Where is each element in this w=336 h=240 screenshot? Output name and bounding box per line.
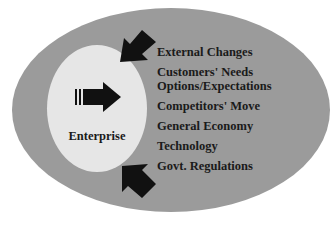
inbound-arrow-icon: [118, 24, 158, 64]
factor-customers-needs: Customers' Needs Options/Expectations: [157, 65, 272, 93]
right-arrow-icon: [75, 82, 121, 112]
factor-competitors-move: Competitors' Move: [157, 99, 272, 113]
factor-customers-needs-line2: Options/Expectations: [157, 79, 272, 93]
factor-general-economy: General Economy: [157, 119, 272, 133]
factor-govt-regulations: Govt. Regulations: [157, 159, 272, 173]
external-factors-list: External Changes Customers' Needs Option…: [157, 45, 272, 179]
inbound-arrow-icon: [118, 162, 158, 202]
enterprise-label: Enterprise: [47, 129, 147, 144]
factor-external-changes: External Changes: [157, 45, 272, 59]
factor-customers-needs-line1: Customers' Needs: [157, 65, 272, 79]
factor-technology: Technology: [157, 139, 272, 153]
